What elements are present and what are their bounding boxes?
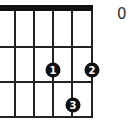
finger-dot-3: 3 xyxy=(66,98,81,113)
fret-line xyxy=(0,46,93,48)
fret-line xyxy=(0,81,93,83)
fret-line xyxy=(0,116,93,118)
string-line xyxy=(14,11,16,118)
chord-label: 0 9 xyxy=(117,5,133,23)
finger-dot-1: 1 xyxy=(46,63,61,78)
string-line xyxy=(33,11,35,118)
finger-dot-2: 2 xyxy=(85,63,100,78)
